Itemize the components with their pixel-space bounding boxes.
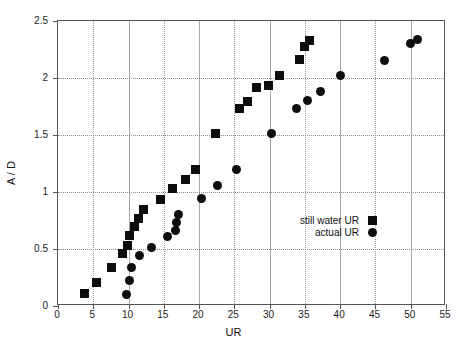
data-point [252, 83, 261, 92]
y-axis-tick-label: 1.5 [0, 129, 48, 140]
data-point [147, 243, 156, 252]
plot-area [57, 20, 445, 305]
y-axis-title-text: A / D [5, 161, 17, 185]
data-point [130, 222, 139, 231]
y-axis-tick [53, 249, 58, 250]
chart-legend: still water URactual UR [300, 214, 377, 238]
x-axis-tick-label: 35 [298, 309, 309, 320]
data-point [295, 55, 304, 64]
x-gridline [93, 21, 94, 304]
scatter-chart: A / D UR still water URactual UR 0510152… [0, 0, 467, 345]
y-gridline [58, 135, 444, 136]
y-axis-tick [53, 306, 58, 307]
data-point [264, 81, 273, 90]
y-axis-tick [53, 21, 58, 22]
y-axis-tick-label: 2.5 [0, 15, 48, 26]
legend-item: actual UR [300, 226, 377, 238]
data-point [336, 71, 345, 80]
x-gridline [234, 21, 235, 304]
x-axis-tick-label: 0 [54, 309, 60, 320]
y-gridline [58, 249, 444, 250]
data-point [107, 263, 116, 272]
data-point [168, 184, 177, 193]
x-axis-tick-label: 5 [89, 309, 95, 320]
x-gridline [305, 21, 306, 304]
x-axis-tick-label: 15 [157, 309, 168, 320]
legend-item: still water UR [300, 214, 377, 226]
y-axis-tick-label: 0.5 [0, 243, 48, 254]
data-point [413, 35, 422, 44]
y-axis-tick-label: 1 [0, 186, 48, 197]
data-point [135, 251, 144, 260]
data-point [134, 214, 143, 223]
data-point [174, 210, 183, 219]
y-axis-tick-label: 0 [0, 300, 48, 311]
data-point [171, 226, 180, 235]
x-gridline [164, 21, 165, 304]
x-axis-tick-label: 10 [122, 309, 133, 320]
data-point [243, 97, 252, 106]
x-axis-tick-label: 45 [369, 309, 380, 320]
data-point [267, 129, 276, 138]
x-axis-tick-label: 25 [228, 309, 239, 320]
data-point [191, 165, 200, 174]
data-point [156, 195, 165, 204]
data-point [139, 205, 148, 214]
data-point [181, 175, 190, 184]
data-point [303, 96, 312, 105]
data-point [213, 181, 222, 190]
data-point [380, 56, 389, 65]
y-axis-tick [53, 135, 58, 136]
data-point [316, 87, 325, 96]
data-point [123, 241, 132, 250]
data-point [211, 129, 220, 138]
x-axis-tick-label: 40 [334, 309, 345, 320]
data-point [163, 232, 172, 241]
x-gridline [340, 21, 341, 304]
y-axis-title: A / D [2, 0, 20, 345]
x-axis-tick-label: 30 [263, 309, 274, 320]
data-point [125, 231, 134, 240]
data-point [292, 104, 301, 113]
data-point [125, 276, 134, 285]
legend-circle-icon [368, 228, 377, 237]
legend-label: still water UR [300, 215, 359, 226]
y-gridline [58, 78, 444, 79]
data-point [275, 71, 284, 80]
data-point [92, 278, 101, 287]
data-point [122, 290, 131, 299]
x-gridline [129, 21, 130, 304]
x-axis-tick-label: 50 [404, 309, 415, 320]
x-gridline [270, 21, 271, 304]
data-point [197, 194, 206, 203]
x-gridline [375, 21, 376, 304]
y-axis-tick-label: 2 [0, 72, 48, 83]
y-gridline [58, 192, 444, 193]
x-axis-tick-label: 20 [193, 309, 204, 320]
legend-label: actual UR [315, 227, 359, 238]
data-point [172, 218, 181, 227]
data-point [118, 249, 127, 258]
y-axis-tick [53, 192, 58, 193]
x-gridline [411, 21, 412, 304]
legend-square-icon [368, 216, 377, 225]
data-point [305, 36, 314, 45]
x-axis-tick-label: 55 [439, 309, 450, 320]
data-point [127, 263, 136, 272]
x-axis-title: UR [0, 326, 467, 338]
data-point [232, 165, 241, 174]
x-gridline [199, 21, 200, 304]
y-axis-tick [53, 78, 58, 79]
data-point [80, 289, 89, 298]
